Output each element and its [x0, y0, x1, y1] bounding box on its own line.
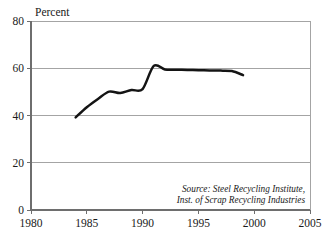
chart-page: Percent 80 60 40 20 0 1980 1985 1990 199…	[0, 0, 330, 246]
xtick-label-1995: 1995	[187, 217, 210, 229]
y-axis-title: Percent	[35, 6, 70, 18]
source-note-line1: Source: Steel Recycling Institute,	[182, 184, 305, 194]
line-chart: Percent 80 60 40 20 0 1980 1985 1990 199…	[0, 0, 330, 246]
ytick-label-40: 40	[13, 110, 25, 122]
source-note-line2: Inst. of Scrap Recycling Industries	[176, 195, 306, 205]
ytick-label-20: 20	[13, 157, 25, 169]
ytick-label-60: 60	[13, 62, 25, 74]
xtick-label-1980: 1980	[20, 217, 43, 229]
xtick-label-1990: 1990	[131, 217, 154, 229]
xtick-label-1985: 1985	[75, 217, 98, 229]
xtick-label-2000: 2000	[243, 217, 266, 229]
ytick-label-80: 80	[13, 15, 25, 27]
ytick-label-0: 0	[18, 204, 24, 216]
xtick-label-2005: 2005	[299, 217, 322, 229]
